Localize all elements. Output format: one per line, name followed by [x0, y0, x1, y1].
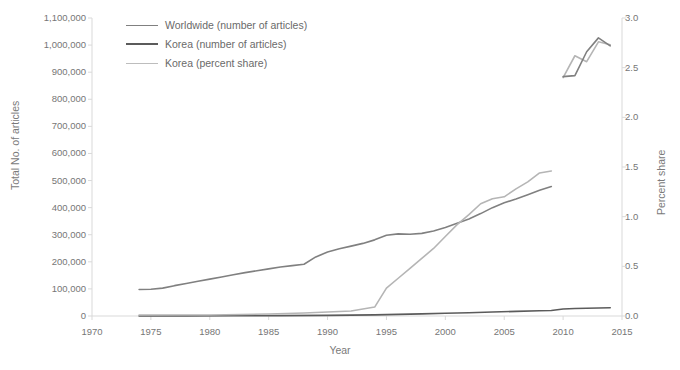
legend-item[interactable]: Korea (number of articles): [126, 37, 307, 51]
legend-item[interactable]: Korea (percent share): [126, 56, 307, 70]
plot-area: [0, 0, 680, 370]
legend-item[interactable]: Worldwide (number of articles): [126, 18, 307, 32]
series-line: [139, 171, 551, 315]
series-line: [139, 187, 551, 290]
legend-line-swatch: [126, 25, 158, 26]
legend-line-swatch: [126, 63, 158, 64]
series-line: [563, 42, 610, 78]
legend-line-swatch: [126, 43, 158, 45]
legend-label: Korea (percent share): [165, 57, 267, 69]
legend-label: Worldwide (number of articles): [165, 19, 307, 31]
chart-container: Total No. of articles Percent share Year…: [0, 0, 680, 370]
legend-label: Korea (number of articles): [165, 38, 286, 50]
chart-legend: Worldwide (number of articles)Korea (num…: [126, 18, 307, 70]
